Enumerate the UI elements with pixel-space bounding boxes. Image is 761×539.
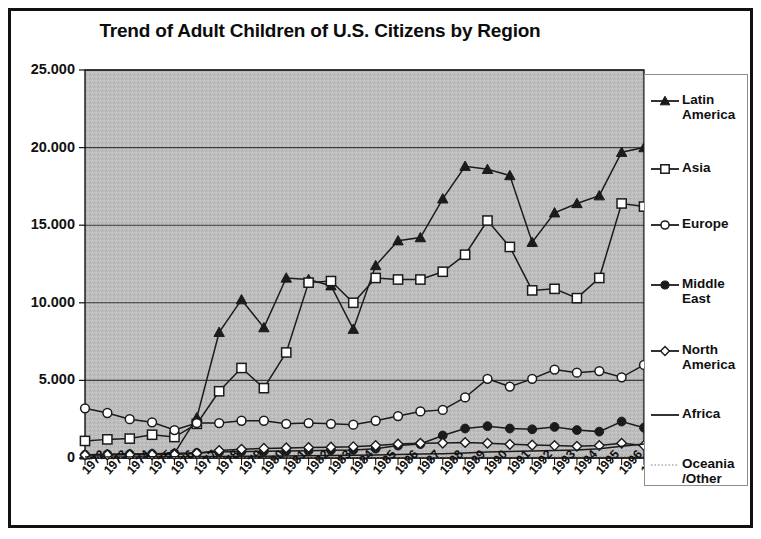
chart-figure: Trend of Adult Children of U.S. Citizens… (0, 0, 761, 539)
legend-item-latin-america[interactable]: Latin America (649, 93, 749, 122)
y-tick-label: 10.000 (5, 294, 75, 310)
legend-marker-icon (649, 162, 681, 176)
legend-marker-icon (649, 408, 681, 422)
legend-marker-icon (649, 94, 681, 108)
legend-item-europe[interactable]: Europe (649, 217, 749, 232)
legend-item-africa[interactable]: Africa (649, 407, 749, 422)
y-tick-label: 0 (5, 449, 75, 465)
legend-marker-icon (649, 458, 681, 472)
legend-item-label: Asia (682, 161, 711, 176)
legend-item-label: North America (682, 343, 749, 372)
legend-item-north-america[interactable]: North America (649, 343, 749, 372)
y-tick-label: 15.000 (5, 216, 75, 232)
legend-item-middle-east[interactable]: Middle East (649, 277, 749, 306)
legend-item-label: Latin America (682, 93, 749, 122)
legend-marker-icon (649, 218, 681, 232)
legend-item-label: Africa (682, 407, 720, 422)
legend-item-label: Middle East (682, 277, 749, 306)
legend-item-label: Oceania /Other (682, 457, 735, 486)
legend-item-label: Europe (682, 217, 729, 232)
chart-legend: Latin AmericaAsiaEuropeMiddle EastNorth … (644, 74, 748, 486)
legend-marker-icon (649, 344, 681, 358)
legend-marker-icon (649, 278, 681, 292)
legend-item-asia[interactable]: Asia (649, 161, 749, 176)
y-tick-label: 20.000 (5, 139, 75, 155)
y-tick-label: 25.000 (5, 61, 75, 77)
legend-item-oceania-other[interactable]: Oceania /Other (649, 457, 749, 486)
y-tick-label: 5.000 (5, 371, 75, 387)
